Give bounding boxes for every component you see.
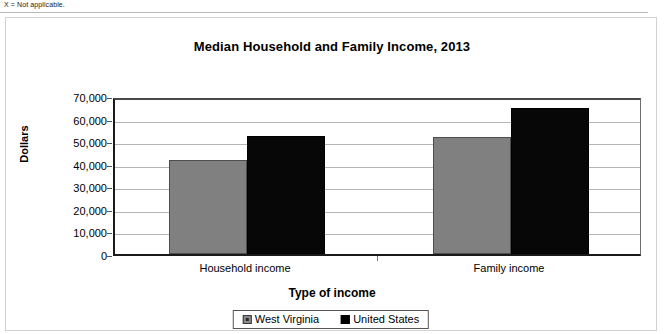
y-axis-tick-mark <box>107 188 112 189</box>
bar-west-virginia-1[interactable] <box>433 137 511 254</box>
y-axis-tick-label: 0 <box>43 250 107 262</box>
y-axis-tick-label: 20,000 <box>43 205 107 217</box>
legend-label-west-virginia: West Virginia <box>255 313 319 325</box>
legend-item-united-states[interactable]: United States <box>341 313 419 325</box>
y-axis-tick-label: 10,000 <box>43 227 107 239</box>
chart-panel: Median Household and Family Income, 2013… <box>5 17 657 331</box>
horizontal-divider <box>0 12 648 13</box>
x-axis-category-label: Family income <box>474 262 545 274</box>
plot-inner <box>115 100 640 254</box>
y-axis-title: Dollars <box>18 104 30 184</box>
y-axis-tick-label: 50,000 <box>43 137 107 149</box>
y-axis-tick-mark <box>107 166 112 167</box>
y-axis-tick-mark <box>107 121 112 122</box>
y-axis-tick-mark <box>107 143 112 144</box>
bar-united-states-0[interactable] <box>247 136 325 254</box>
legend-swatch-icon-united-states <box>341 315 350 324</box>
chart-title: Median Household and Family Income, 2013 <box>6 39 658 54</box>
y-axis-tick-label: 70,000 <box>43 92 107 104</box>
y-axis-tick-mark <box>107 256 112 257</box>
y-axis-tick-label: 40,000 <box>43 160 107 172</box>
y-axis-tick-mark <box>107 233 112 234</box>
chart-legend: West Virginia United States <box>233 310 429 329</box>
legend-label-united-states: United States <box>353 313 419 325</box>
plot-area <box>113 98 641 256</box>
y-axis-tick-label: 30,000 <box>43 182 107 194</box>
y-axis-tick-mark <box>107 211 112 212</box>
x-axis-tick-mark <box>377 256 378 261</box>
y-axis-tick-labels: 70,00060,00050,00040,00030,00020,00010,0… <box>41 98 107 256</box>
y-axis-tick-mark <box>107 98 112 99</box>
bar-united-states-1[interactable] <box>511 108 589 254</box>
legend-swatch-icon-west-virginia <box>243 315 252 324</box>
bar-west-virginia-0[interactable] <box>169 160 247 254</box>
x-axis-category-label: Household income <box>199 262 290 274</box>
y-axis-tick-label: 60,000 <box>43 115 107 127</box>
footnote-text: X = Not applicable. <box>4 1 65 8</box>
x-axis-title: Type of income <box>6 286 658 300</box>
legend-item-west-virginia[interactable]: West Virginia <box>243 313 319 325</box>
